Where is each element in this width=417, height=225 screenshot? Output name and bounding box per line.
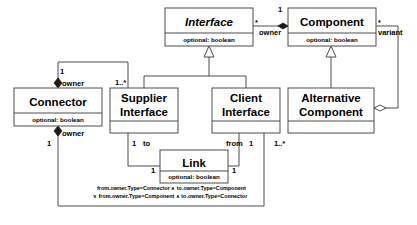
constraint-line-1: from.owner.Type=Connector ∧ to.owner.Typ… [97, 185, 246, 191]
role-label-variant: variant [378, 28, 403, 37]
uml-class-diagram: Component (composition, filled diamond a… [0, 0, 417, 225]
class-attribute-interface: optional: boolean [183, 36, 235, 43]
class-box-component[interactable]: Component optional: boolean [288, 8, 376, 46]
class-box-alternative-component[interactable]: Alternative Component [288, 88, 374, 133]
class-attribute-component: optional: boolean [306, 36, 358, 43]
association-client-from-link [228, 133, 239, 166]
class-box-connector[interactable]: Connector optional: boolean [14, 88, 102, 126]
class-name-client-interface-line2: Interface [222, 106, 270, 118]
association-supplier-to-link [128, 133, 160, 166]
class-name-client-interface-line1: Client [230, 92, 262, 104]
multiplicity-connector-bottom-one: 1 [47, 139, 51, 148]
role-label-owner-top: owner [62, 79, 84, 88]
class-name-alternative-component-line1: Alternative [301, 92, 360, 104]
diagram-canvas: Component (composition, filled diamond a… [0, 0, 417, 225]
class-attribute-link: optional: boolean [168, 173, 220, 180]
class-box-supplier-interface[interactable]: Supplier Interface [110, 88, 178, 133]
class-attribute-connector: optional: boolean [32, 116, 84, 123]
multiplicity-component-star: * [378, 18, 381, 27]
multiplicity-interface-star: * [255, 18, 258, 27]
multiplicity-connector-top-one: 1 [60, 67, 64, 76]
class-box-client-interface[interactable]: Client Interface [212, 88, 280, 133]
constraint-line-2: ∨ from.owner.Type=Component ∧ to.owner.T… [93, 193, 248, 199]
multiplicity-client-bottom-one: 1 [249, 139, 253, 148]
class-name-alternative-component-line2: Component [299, 106, 363, 118]
role-label-owner-interface-component: owner [259, 28, 281, 37]
class-name-supplier-interface-line2: Interface [120, 106, 168, 118]
generalization-interfaces-to-interface [144, 46, 246, 88]
generalization-alternative-to-component [326, 46, 336, 88]
multiplicity-link-left-one: 1 [151, 166, 155, 175]
class-name-supplier-interface-line1: Supplier [121, 92, 168, 104]
multiplicity-supplier-bottom-one: 1 [132, 139, 136, 148]
role-label-from: from [226, 139, 243, 148]
role-label-to: to [143, 139, 150, 148]
multiplicity-component-one: 1 [278, 5, 282, 14]
multiplicity-link-right-one: 1 [232, 166, 236, 175]
class-box-interface[interactable]: Interface optional: boolean [165, 8, 253, 46]
association-component-variant-alternative [374, 26, 398, 111]
class-name-interface: Interface [185, 16, 234, 28]
role-label-owner-bottom: owner [62, 129, 84, 138]
multiplicity-client-one-many: 1..* [274, 139, 285, 148]
class-name-link: Link [182, 157, 206, 169]
multiplicity-supplier-one-many: 1..* [115, 78, 126, 87]
class-name-component: Component [300, 16, 364, 28]
class-name-connector: Connector [29, 96, 87, 108]
class-box-link[interactable]: Link optional: boolean [160, 150, 228, 183]
